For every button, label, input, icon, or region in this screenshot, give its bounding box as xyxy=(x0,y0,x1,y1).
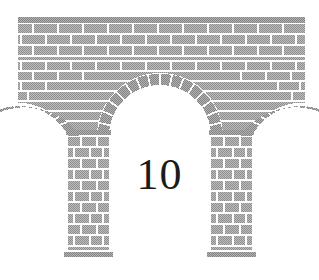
arch-voussoirs xyxy=(0,0,319,280)
figure-root: 10 xyxy=(0,0,319,280)
chapter-number: 10 xyxy=(0,152,319,198)
coping-course xyxy=(18,17,305,24)
aqueduct-illustration xyxy=(0,0,319,280)
